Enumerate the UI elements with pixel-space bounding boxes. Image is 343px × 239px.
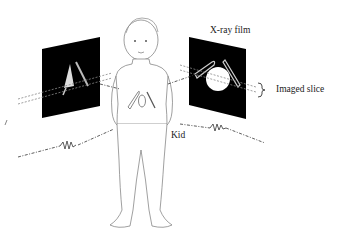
right-xray-film <box>180 37 256 119</box>
xray-diagram <box>0 0 343 239</box>
left-xray-film <box>18 37 112 118</box>
slice-bracket <box>258 83 265 97</box>
child-figure <box>110 18 173 227</box>
xray-film-label: X-ray film <box>210 25 250 35</box>
imaged-slice-label: Imaged slice <box>276 84 324 94</box>
kid-label: Kid <box>171 130 185 140</box>
